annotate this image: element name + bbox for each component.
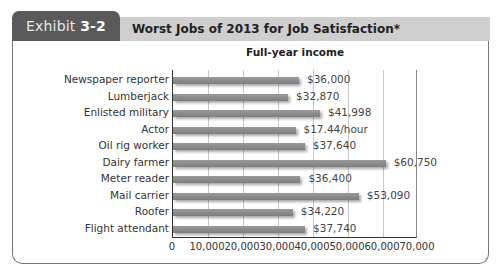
value-label: $34,220 (301, 205, 344, 217)
value-label: $32,870 (296, 90, 339, 102)
bar (173, 94, 288, 101)
bar (173, 176, 300, 183)
x-tick-label: 60,000 (365, 241, 400, 252)
x-tick-label: 10,000 (190, 241, 225, 252)
x-tick-label: 30,000 (260, 241, 295, 252)
value-label: $41,998 (328, 106, 371, 118)
category-label: Meter reader (101, 172, 169, 184)
bar (173, 193, 359, 200)
exhibit-title: Worst Jobs of 2013 for Job Satisfaction* (132, 17, 400, 41)
x-tick-label: 40,000 (295, 241, 330, 252)
x-tick-label: 20,000 (225, 241, 260, 252)
value-label: $36,400 (308, 172, 351, 184)
category-label: Actor (141, 123, 169, 135)
category-label: Enlisted military (84, 106, 169, 118)
value-label: $53,090 (367, 189, 410, 201)
bar (173, 77, 299, 84)
value-label: $37,640 (313, 139, 356, 151)
value-label: $36,000 (307, 73, 350, 85)
bar (173, 209, 293, 216)
value-label: $60,750 (394, 156, 437, 168)
bar (173, 143, 305, 150)
value-label: $17.44/hour (304, 123, 368, 135)
bar (173, 226, 305, 233)
bar (173, 110, 320, 117)
plot-area (172, 70, 417, 238)
x-tick-label: 70,000 (400, 241, 435, 252)
category-label: Oil rig worker (99, 139, 170, 151)
exhibit-tab: Exhibit 3-2 (12, 11, 120, 41)
category-label: Dairy farmer (102, 156, 169, 168)
bar (173, 127, 296, 134)
chart-title: Full-year income (246, 46, 344, 58)
gridline (383, 70, 384, 237)
category-label: Flight attendant (85, 222, 169, 234)
gridline (348, 70, 349, 237)
x-tick-label: 50,000 (330, 241, 365, 252)
category-label: Mail carrier (110, 189, 169, 201)
category-label: Lumberjack (108, 90, 169, 102)
category-label: Roofer (135, 205, 169, 217)
bar (173, 160, 386, 167)
exhibit-number: 3-2 (80, 18, 106, 34)
x-tick-label: 0 (169, 241, 175, 252)
exhibit-prefix: Exhibit (26, 18, 76, 34)
category-label: Newspaper reporter (64, 73, 169, 85)
value-label: $37,740 (313, 222, 356, 234)
header-bar: Worst Jobs of 2013 for Job Satisfaction* (120, 17, 490, 41)
